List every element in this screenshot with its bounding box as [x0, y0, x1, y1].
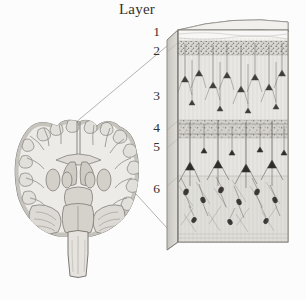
layer-number-1: 1 [146, 25, 160, 39]
brainstem [68, 231, 89, 278]
layer-2-granule-cells [178, 41, 288, 55]
cortical-column [167, 20, 288, 250]
layer-4-granular-band [178, 120, 288, 138]
layer-number-2: 2 [146, 44, 160, 58]
coronal-brain-section [15, 119, 141, 277]
midbrain [62, 204, 94, 235]
layer-number-4: 4 [146, 121, 160, 135]
layer-number-3: 3 [146, 89, 160, 103]
layer-heading: Layer [119, 2, 155, 17]
layer-number-6: 6 [146, 182, 160, 196]
column-side-texture [167, 30, 179, 250]
layer-number-5: 5 [146, 140, 160, 154]
